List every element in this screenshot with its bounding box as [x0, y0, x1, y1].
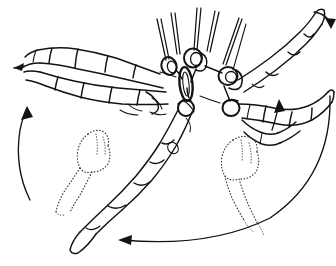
figure-background	[0, 0, 336, 266]
arachnid-leg-movement-figure: Arachnid leg movement diagram	[0, 0, 336, 266]
figure-root: Arachnid leg movement diagram	[0, 0, 336, 266]
